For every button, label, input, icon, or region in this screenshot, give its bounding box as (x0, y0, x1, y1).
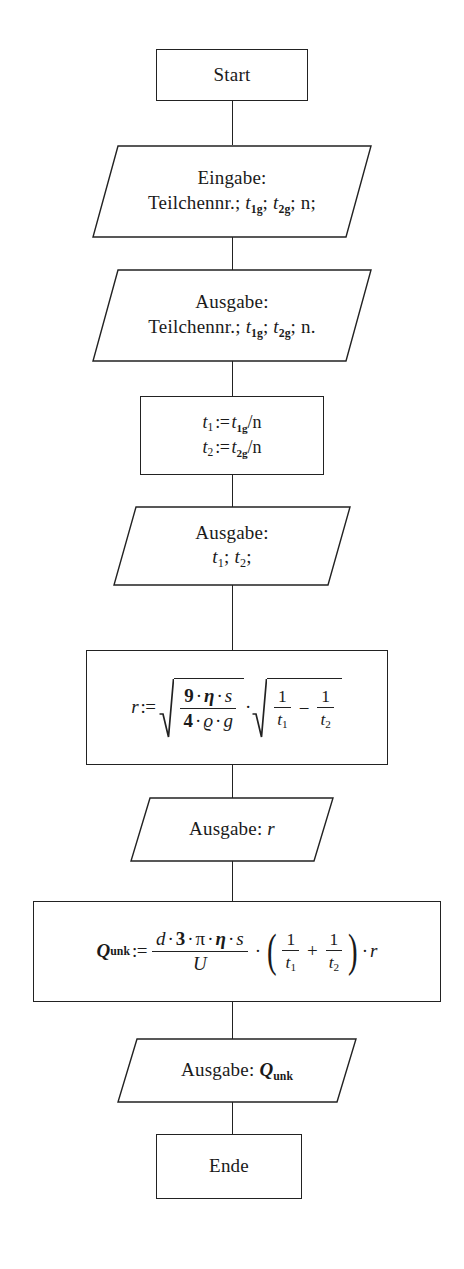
connector-output3-to-process3 (232, 861, 234, 902)
connector-start-to-input (232, 101, 234, 145)
output-t-line1: Ausgabe: (195, 522, 268, 543)
compute-t-line1: t1:=t1g/n (202, 411, 261, 435)
node-output-q-text: Ausgabe: Qunk (117, 1058, 357, 1084)
output-t-tail: ; (246, 546, 251, 567)
left-den: t1 (273, 708, 291, 730)
q-num-dot2: · (185, 928, 195, 949)
node-output-values: Ausgabe: Teilchennr.; t1g; t2g; n. (92, 269, 372, 362)
connector-process1-to-output2 (232, 474, 234, 507)
left-num: 1 (274, 687, 291, 708)
q-den: U (189, 952, 211, 975)
input-line2: Teilchennr.; t1g; t2g; n; (126, 191, 338, 217)
num-dot1: · (194, 685, 204, 706)
output1-sep2: ; (291, 316, 301, 337)
compute-r-lhs: r (131, 695, 138, 719)
den-b: ϱ (203, 710, 213, 731)
node-output-t: Ausgabe: t1; t2; (113, 506, 351, 586)
fraction-eta-s-over-rho-g: 9·η·s 4·ϱ·g (180, 686, 237, 731)
input-sep2: ; (290, 192, 300, 213)
q-num-dot3: · (205, 928, 215, 949)
input-sep1: ; (263, 192, 273, 213)
output-q-var-sub: unk (273, 1069, 293, 1082)
node-compute-t: t1:=t1g/n t2:=t2g/n (140, 396, 324, 475)
compute-t2-op: := (213, 437, 231, 457)
output1-var2-sub: 2g (279, 327, 291, 340)
sqrt-first-body: 9·η·s 4·ϱ·g (174, 678, 244, 738)
output1-sep1: ; (263, 316, 273, 337)
fraction-one-over-t1: 1 t1 (273, 687, 291, 730)
num-dot2: · (214, 685, 224, 706)
q-fraction-one-over-t1: 1 t1 (282, 930, 300, 973)
node-input-values: Eingabe: Teilchennr.; t1g; t2g; n; (92, 145, 372, 238)
q-left-den: t1 (282, 951, 300, 973)
q-num-dot4: · (226, 928, 236, 949)
q-paren-open: ( (267, 937, 277, 966)
compute-t1-op: := (213, 412, 231, 432)
q-right-den-sub: 2 (334, 961, 340, 973)
output-r-prefix: Ausgabe: (189, 818, 267, 839)
compute-t1-rhs-tail: /n (248, 412, 262, 432)
num-c: s (225, 685, 232, 706)
output1-tail: n. (301, 316, 316, 337)
q-dot1: · (251, 939, 265, 963)
sqrt-second: 1 t1 − 1 t2 (252, 678, 342, 738)
fraction-d3pietas-over-U: d·3·π·η·s U (152, 929, 248, 974)
node-input-values-text: Eingabe: Teilchennr.; t1g; t2g; n; (92, 166, 372, 216)
node-output-r: Ausgabe: r (130, 797, 334, 862)
connector-output2-to-process2 (232, 585, 234, 651)
node-compute-r: r:= 9·η·s 4·ϱ·g · 1 (86, 650, 388, 765)
output1-line2-prefix: Teilchennr.; (148, 316, 245, 337)
input-line2-prefix: Teilchennr.; (148, 192, 245, 213)
compute-r-mid-dot: · (245, 695, 251, 719)
compute-t-line2: t2:=t2g/n (202, 436, 261, 460)
connector-input-to-output1 (232, 237, 234, 270)
input-var2-sub: 2g (279, 203, 291, 216)
node-output-q: Ausgabe: Qunk (117, 1038, 357, 1103)
q-num: d·3·π·η·s (152, 929, 248, 952)
q-right-num: 1 (326, 930, 343, 951)
den-dot1: · (193, 710, 203, 731)
radical-sign-icon (252, 678, 267, 738)
den-c: g (223, 710, 233, 731)
sqrt-first: 9·η·s 4·ϱ·g (159, 678, 244, 738)
compute-q-formula: Qunk:= d·3·π·η·s U · ( 1 t1 + 1 t2 ) ·r (97, 929, 378, 974)
compute-t1-rhs-sub: 1g (236, 422, 247, 434)
input-var1-sub: 1g (251, 203, 263, 216)
den-a: 4 (184, 710, 194, 731)
output-t-line2: t1; t2; (147, 545, 317, 571)
compute-t2-rhs-tail: /n (248, 437, 262, 457)
left-den-sub: 1 (282, 719, 288, 731)
input-tail: n; (301, 192, 316, 213)
q-paren-close: ) (348, 937, 358, 966)
compute-t2-rhs-sub: 2g (236, 446, 247, 458)
output-r-var: r (267, 818, 275, 839)
connector-output4-to-ende (232, 1102, 234, 1135)
node-ende-label: Ende (209, 1154, 249, 1178)
node-start-label: Start (214, 63, 251, 87)
connector-output1-to-process1 (232, 361, 234, 397)
node-start: Start (156, 49, 308, 101)
q-num-b: 3 (176, 928, 186, 949)
output-q-var: Q (259, 1059, 273, 1080)
sqrt-second-body: 1 t1 − 1 t2 (267, 678, 342, 738)
output1-var1-sub: 1g (251, 327, 263, 340)
node-ende: Ende (156, 1134, 302, 1199)
q-right-den: t2 (325, 951, 343, 973)
fraction-numerator: 9·η·s (180, 686, 236, 709)
compute-r-formula: r:= 9·η·s 4·ϱ·g · 1 (131, 678, 343, 738)
node-output-r-text: Ausgabe: r (130, 817, 334, 841)
num-a: 9 (184, 685, 194, 706)
q-num-e: s (236, 928, 243, 949)
q-left-num: 1 (282, 930, 299, 951)
input-line1: Eingabe: (197, 167, 266, 188)
q-tail: r (370, 939, 377, 963)
flowchart-canvas: Start Eingabe: Teilchennr.; t1g; t2g; n;… (0, 0, 464, 1269)
compute-q-op: := (130, 939, 149, 963)
compute-q-lhs: Q (97, 939, 111, 963)
output1-line1: Ausgabe: (195, 291, 268, 312)
node-compute-q: Qunk:= d·3·π·η·s U · ( 1 t1 + 1 t2 ) ·r (33, 901, 441, 1002)
connector-process3-to-output4 (232, 1001, 234, 1039)
q-num-c: π (196, 928, 206, 949)
den-dot2: · (213, 710, 223, 731)
compute-q-lhs-sub: unk (110, 944, 130, 959)
